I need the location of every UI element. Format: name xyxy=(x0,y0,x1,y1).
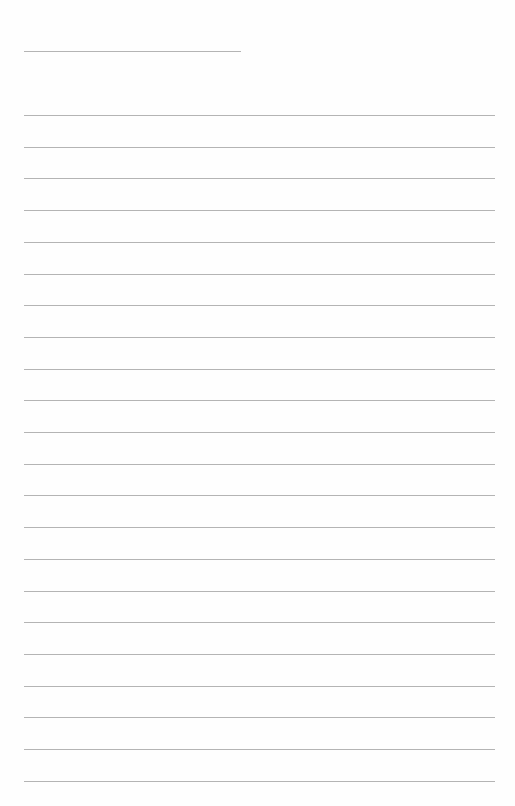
ruled-line xyxy=(24,400,495,401)
ruled-line xyxy=(24,717,495,718)
ruled-line xyxy=(24,686,495,687)
lined-paper-page xyxy=(0,0,515,806)
ruled-line xyxy=(24,147,495,148)
ruled-line xyxy=(24,178,495,179)
ruled-line xyxy=(24,210,495,211)
ruled-line xyxy=(24,749,495,750)
ruled-line xyxy=(24,305,495,306)
ruled-line xyxy=(24,432,495,433)
ruled-line xyxy=(24,654,495,655)
ruled-line xyxy=(24,591,495,592)
ruled-line xyxy=(24,274,495,275)
ruled-line xyxy=(24,115,495,116)
ruled-line xyxy=(24,559,495,560)
ruled-line xyxy=(24,242,495,243)
ruled-line xyxy=(24,337,495,338)
ruled-line xyxy=(24,781,495,782)
ruled-line xyxy=(24,622,495,623)
header-name-line xyxy=(24,51,241,52)
ruled-line xyxy=(24,464,495,465)
ruled-line xyxy=(24,495,495,496)
ruled-line xyxy=(24,527,495,528)
ruled-line xyxy=(24,369,495,370)
